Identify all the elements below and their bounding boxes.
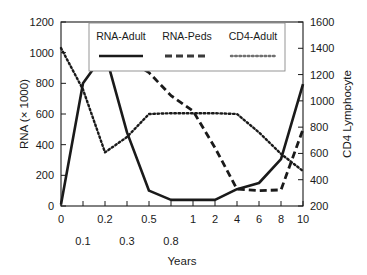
- x-axis-tick-label: 6: [256, 213, 262, 225]
- chart-figure: 020040060080010001200 200400600800100012…: [0, 0, 367, 275]
- y-axis-right-tick-label: 1000: [310, 95, 334, 107]
- x-axis-tick-label: 0.1: [75, 235, 90, 247]
- x-axis-ticks: [61, 201, 303, 206]
- x-axis-tick-labels-row2: 0.10.30.8: [75, 235, 178, 247]
- y-axis-left-title: RNA (× 1000): [18, 79, 30, 149]
- y-axis-left-tick-label: 600: [36, 108, 54, 120]
- y-axis-left-tick-label: 0: [48, 200, 54, 212]
- y-axis-right-tick-label: 1200: [310, 69, 334, 81]
- y-axis-right-tick-label: 1400: [310, 42, 334, 54]
- y-axis-left-tick-label: 400: [36, 139, 54, 151]
- x-axis-tick-label: 0.5: [141, 213, 156, 225]
- y-axis-right-tick-label: 1600: [310, 16, 334, 28]
- series-line-rna-peds: [105, 53, 303, 191]
- line-chart: 020040060080010001200 200400600800100012…: [0, 0, 367, 275]
- x-axis-tick-label: 2: [212, 213, 218, 225]
- y-axis-right-ticks: [298, 22, 303, 206]
- y-axis-left-tick-label: 200: [36, 169, 54, 181]
- x-axis-tick-label: 0.8: [163, 235, 178, 247]
- y-axis-right-tick-label: 200: [310, 200, 328, 212]
- y-axis-right-tick-label: 600: [310, 147, 328, 159]
- x-axis-title: Years: [168, 255, 197, 267]
- x-axis-tick-label: 0.2: [97, 213, 112, 225]
- x-axis-tick-label: 8: [278, 213, 284, 225]
- legend-label-rna-peds: RNA-Peds: [162, 30, 212, 42]
- x-axis-tick-label: 4: [234, 213, 240, 225]
- y-axis-right-tick-label: 800: [310, 121, 328, 133]
- y-axis-left-tick-label: 800: [36, 77, 54, 89]
- x-axis-tick-labels-row1: 00.20.51246810: [58, 213, 309, 225]
- y-axis-left-tick-label: 1200: [30, 16, 54, 28]
- legend-label-cd4-adult: CD4-Adult: [229, 30, 278, 42]
- y-axis-left-tick-label: 1000: [30, 47, 54, 59]
- y-axis-left-tick-labels: 020040060080010001200: [30, 16, 54, 212]
- x-axis-tick-label: 0.3: [119, 235, 134, 247]
- x-axis-tick-label: 0: [58, 213, 64, 225]
- y-axis-right-tick-labels: 2004006008001000120014001600: [310, 16, 334, 212]
- y-axis-right-tick-label: 400: [310, 174, 328, 186]
- y-axis-right-title: CD4 Lymphocyte: [341, 70, 353, 158]
- series-lines: [61, 48, 303, 204]
- x-axis-tick-label: 10: [297, 213, 309, 225]
- x-axis-tick-label: 1: [190, 213, 196, 225]
- legend-label-rna-adult: RNA-Adult: [96, 30, 146, 42]
